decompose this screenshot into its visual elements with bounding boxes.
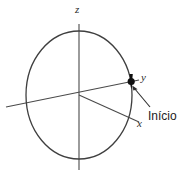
start-point-label: Início	[148, 110, 177, 122]
axis-label-z: z	[75, 4, 79, 15]
axis-label-x: x	[137, 118, 142, 129]
orbit-diagram-figure: z y x Início	[0, 0, 189, 175]
axis-label-y: y	[141, 72, 146, 83]
start-callout-arrow	[132, 86, 150, 107]
diagram-canvas	[0, 0, 189, 175]
x-axis-line	[79, 95, 139, 122]
